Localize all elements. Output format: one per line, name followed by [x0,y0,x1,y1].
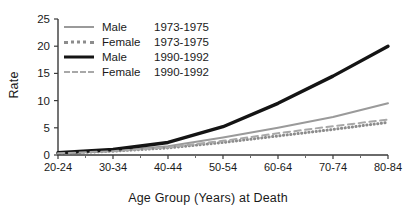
legend-label-name: Male [102,21,154,33]
chart-figure: Rate Age Group (Years) at Death 05101520… [0,0,416,220]
chart-legend: Male 1973-1975 Female 1973-1975 Male 199… [64,19,209,79]
legend-item: Female 1973-1975 [64,34,209,49]
legend-label-name: Female [102,66,154,78]
legend-label-period: 1990-1992 [154,66,209,78]
legend-label-name: Male [102,51,154,63]
legend-swatch-male-1973-icon [64,21,94,33]
legend-item: Female 1990-1992 [64,64,209,79]
legend-item: Male 1973-1975 [64,19,209,34]
legend-swatch-female-1973-icon [64,36,94,48]
legend-swatch-female-1990-icon [64,66,94,78]
legend-label-period: 1973-1975 [154,36,209,48]
legend-swatch-male-1990-icon [64,51,94,63]
legend-item: Male 1990-1992 [64,49,209,64]
legend-label-period: 1973-1975 [154,21,209,33]
legend-label-period: 1990-1992 [154,51,209,63]
legend-label-name: Female [102,36,154,48]
